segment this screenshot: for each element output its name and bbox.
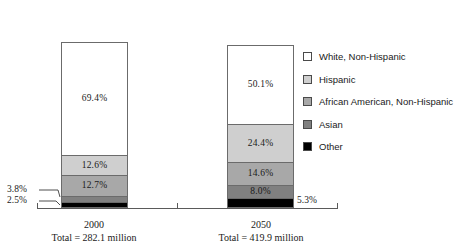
legend-swatch-icon: [303, 52, 312, 61]
segment-2000-african-american-non-hispanic[interactable]: 12.7%: [62, 176, 127, 197]
segment-label: 14.6%: [248, 169, 274, 179]
segment-2050-white-non-hispanic[interactable]: 50.1%: [228, 46, 293, 125]
bar-2050[interactable]: 50.1% 24.4% 14.6% 8.0%: [227, 45, 294, 208]
segment-label: 8.0%: [250, 187, 271, 197]
legend-item-white-non-hispanic[interactable]: White, Non-Hispanic: [303, 52, 453, 62]
segment-2000-white-non-hispanic[interactable]: 69.4%: [62, 43, 127, 156]
legend-item-label: Hispanic: [319, 75, 355, 85]
callout-2000-other: 2.5%: [7, 196, 27, 206]
segment-2000-other[interactable]: [62, 203, 127, 207]
legend-item-african-american-non-hispanic[interactable]: African American, Non-Hispanic: [303, 97, 453, 107]
segment-label: 69.4%: [82, 94, 108, 104]
x-axis-line: [37, 208, 338, 209]
segment-2050-hispanic[interactable]: 24.4%: [228, 125, 293, 163]
legend: White, Non-Hispanic Hispanic African Ame…: [303, 52, 453, 152]
x-axis-label-group-2050: 2050 Total = 419.9 million: [191, 219, 331, 244]
legend-swatch-icon: [303, 75, 312, 84]
axis-tick-middle: [177, 203, 178, 209]
legend-item-asian[interactable]: Asian: [303, 120, 453, 130]
segment-2050-other[interactable]: [228, 199, 293, 207]
plot-area: 69.4% 12.6% 12.7% 50.1% 24.4%: [0, 0, 340, 250]
legend-swatch-icon: [303, 120, 312, 129]
segment-2050-asian[interactable]: 8.0%: [228, 186, 293, 199]
segment-2000-hispanic[interactable]: 12.6%: [62, 156, 127, 176]
bar-2000[interactable]: 69.4% 12.6% 12.7%: [61, 42, 128, 208]
x-axis-year: 2050: [191, 219, 331, 232]
segment-label: 12.6%: [82, 161, 108, 171]
legend-item-label: Other: [319, 142, 343, 152]
segment-label: 12.7%: [82, 181, 108, 191]
legend-item-other[interactable]: Other: [303, 142, 453, 152]
legend-item-hispanic[interactable]: Hispanic: [303, 75, 453, 85]
callout-2000-asian: 3.8%: [7, 185, 27, 195]
segment-label: 50.1%: [248, 80, 274, 90]
legend-item-label: White, Non-Hispanic: [319, 52, 406, 62]
x-axis-total: Total = 282.1 million: [24, 232, 164, 245]
segment-label: 24.4%: [248, 139, 274, 149]
legend-swatch-icon: [303, 142, 312, 151]
x-axis-total: Total = 419.9 million: [191, 232, 331, 245]
legend-swatch-icon: [303, 97, 312, 106]
stacked-bar-chart: 69.4% 12.6% 12.7% 50.1% 24.4%: [0, 0, 469, 250]
segment-2050-african-american-non-hispanic[interactable]: 14.6%: [228, 163, 293, 186]
x-axis-year: 2000: [24, 219, 164, 232]
axis-tick-left: [37, 203, 38, 209]
x-axis-label-group-2000: 2000 Total = 282.1 million: [24, 219, 164, 244]
legend-item-label: African American, Non-Hispanic: [319, 97, 453, 107]
axis-tick-right: [337, 203, 338, 209]
legend-item-label: Asian: [319, 120, 343, 130]
callout-2050-other: 5.3%: [297, 196, 317, 206]
